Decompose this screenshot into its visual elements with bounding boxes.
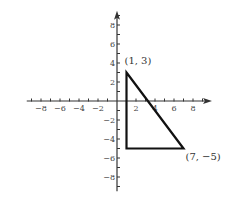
x-tick-label: −6	[54, 104, 66, 113]
y-tick-label: −8	[103, 173, 115, 182]
y-tick-label: 6	[110, 40, 115, 49]
x-tick-label: 2	[133, 104, 138, 113]
y-tick-label: −6	[103, 154, 115, 163]
plot-svg: −8−6−4−22468−8−6−4−22468 (1, 3)(7, −5)	[0, 0, 230, 203]
y-tick-label: −4	[103, 135, 115, 144]
y-tick-label: 4	[110, 59, 115, 68]
vertex-label-top: (1, 3)	[125, 55, 152, 66]
coordinate-plane: −8−6−4−22468−8−6−4−22468 (1, 3)(7, −5)	[0, 0, 230, 203]
x-tick-label: 6	[171, 104, 176, 113]
axes	[27, 11, 212, 192]
y-tick-label: 8	[110, 21, 115, 30]
vertex-label-bottom-right: (7, −5)	[186, 151, 221, 162]
y-tick-label: 2	[110, 78, 115, 87]
y-tick-label: −2	[103, 116, 115, 125]
x-tick-label: −8	[35, 104, 47, 113]
x-tick-label: −2	[92, 104, 104, 113]
x-tick-label: 8	[190, 104, 195, 113]
x-tick-label: −4	[73, 104, 85, 113]
